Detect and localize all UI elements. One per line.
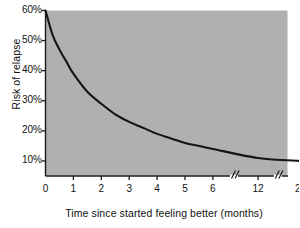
x-axis-title: Time since started feeling better (month… [38, 207, 290, 219]
x-tick-label: 1 [61, 183, 85, 194]
x-tick-label: 24 [289, 183, 300, 194]
plot-area-background [46, 11, 288, 176]
x-tick-label: 0 [34, 183, 58, 194]
x-tick-label: 6 [201, 183, 225, 194]
x-tick-label: 2 [89, 183, 113, 194]
chart-figure: 60%50%40%30%20%10% 01234561224 Risk of r… [0, 0, 299, 228]
y-tick-label: 60% [12, 4, 42, 15]
x-tick-label: 12 [246, 183, 270, 194]
x-tick-label: 4 [145, 183, 169, 194]
x-tick-label: 5 [173, 183, 197, 194]
x-tick-label: 3 [117, 183, 141, 194]
y-tick-label: 10% [12, 154, 42, 165]
y-axis-title: Risk of relapse [10, 14, 22, 134]
x-axis-tick-labels: 01234561224 [0, 183, 299, 197]
